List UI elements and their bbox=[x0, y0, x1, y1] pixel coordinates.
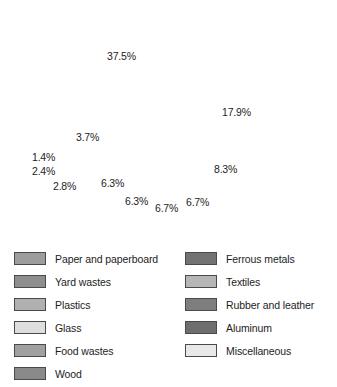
legend-item-label: Food wastes bbox=[55, 345, 113, 357]
legend-swatch bbox=[185, 321, 217, 334]
legend-item-label: Ferrous metals bbox=[226, 253, 295, 265]
legend-swatch bbox=[14, 252, 46, 265]
legend-item-label: Glass bbox=[55, 322, 81, 334]
pie-percent-label: 1.4% bbox=[32, 151, 55, 163]
pie-percent-label: 3.7% bbox=[76, 131, 99, 143]
legend-item: Ferrous metals bbox=[185, 247, 314, 270]
legend-swatch bbox=[185, 344, 217, 357]
legend-swatch bbox=[14, 275, 46, 288]
pie-percent-label: 6.3% bbox=[125, 195, 148, 207]
legend-swatch bbox=[185, 298, 217, 311]
legend-item-label: Aluminum bbox=[226, 322, 272, 334]
legend-item: Plastics bbox=[14, 293, 158, 316]
legend-item: Food wastes bbox=[14, 339, 158, 362]
legend-item: Wood bbox=[14, 362, 158, 385]
legend-swatch bbox=[14, 367, 46, 380]
pie-percent-label: 6.7% bbox=[155, 202, 178, 214]
pie-percent-label: 37.5% bbox=[107, 50, 136, 62]
pie-chart-area: 37.5%17.9%8.3%6.7%6.7%6.3%6.3%2.8%2.4%1.… bbox=[0, 0, 337, 243]
pie-percent-label: 2.4% bbox=[32, 165, 55, 177]
pie-percent-label: 6.3% bbox=[101, 177, 124, 189]
legend-swatch bbox=[14, 344, 46, 357]
chart-legend: Paper and paperboardYard wastesPlasticsG… bbox=[0, 243, 337, 387]
legend-item-label: Wood bbox=[55, 368, 82, 380]
legend-item: Paper and paperboard bbox=[14, 247, 158, 270]
legend-item-label: Textiles bbox=[226, 276, 260, 288]
legend-swatch bbox=[185, 275, 217, 288]
legend-item: Aluminum bbox=[185, 316, 314, 339]
pie-percent-label: 2.8% bbox=[53, 180, 76, 192]
legend-item: Textiles bbox=[185, 270, 314, 293]
legend-item: Rubber and leather bbox=[185, 293, 314, 316]
legend-item-label: Rubber and leather bbox=[226, 299, 314, 311]
pie-percent-label: 6.7% bbox=[186, 196, 209, 208]
legend-item-label: Plastics bbox=[55, 299, 90, 311]
legend-item: Glass bbox=[14, 316, 158, 339]
pie-percent-label: 8.3% bbox=[214, 163, 237, 175]
legend-item: Yard wastes bbox=[14, 270, 158, 293]
legend-column-right: Ferrous metalsTextilesRubber and leather… bbox=[185, 247, 314, 362]
legend-item-label: Miscellaneous bbox=[226, 345, 291, 357]
legend-swatch bbox=[14, 321, 46, 334]
legend-item: Miscellaneous bbox=[185, 339, 314, 362]
legend-item-label: Yard wastes bbox=[55, 276, 111, 288]
pie-percent-label: 17.9% bbox=[222, 106, 251, 118]
legend-column-left: Paper and paperboardYard wastesPlasticsG… bbox=[14, 247, 158, 385]
legend-swatch bbox=[14, 298, 46, 311]
legend-swatch bbox=[185, 252, 217, 265]
legend-item-label: Paper and paperboard bbox=[55, 253, 158, 265]
